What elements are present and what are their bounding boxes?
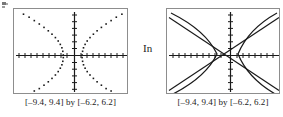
calculator-screen-left: [13, 8, 128, 94]
calculator-screen-right: [166, 8, 280, 94]
calculator-panel-right: [–9.4, 9.4] by [–6.2, 6.2]: [166, 8, 280, 108]
calculator-panel-left: [–9.4, 9.4] by [–6.2, 6.2]: [13, 8, 128, 108]
viewing-window-caption-right: [–9.4, 9.4] by [–6.2, 6.2]: [166, 97, 280, 108]
hyperbola-dots-left-branch: [23, 13, 64, 91]
scan-artifact-mark: [6, 3, 8, 5]
viewing-window-caption-left: [–9.4, 9.4] by [–6.2, 6.2]: [13, 97, 128, 108]
figure-container: [–9.4, 9.4] by [–6.2, 6.2] In: [0, 0, 283, 117]
hyperbola-dots-right-branch: [81, 13, 122, 91]
axes-group: [16, 12, 127, 92]
hyperbola-asymptote-plot: [167, 9, 280, 94]
figure-inset-label: In: [143, 42, 152, 54]
hyperbola-left-branch: [171, 13, 217, 94]
hyperbola-dot-plot: [14, 9, 128, 94]
hyperbola-right-branch: [238, 13, 277, 94]
scan-artifact-mark: [2, 6, 5, 8]
